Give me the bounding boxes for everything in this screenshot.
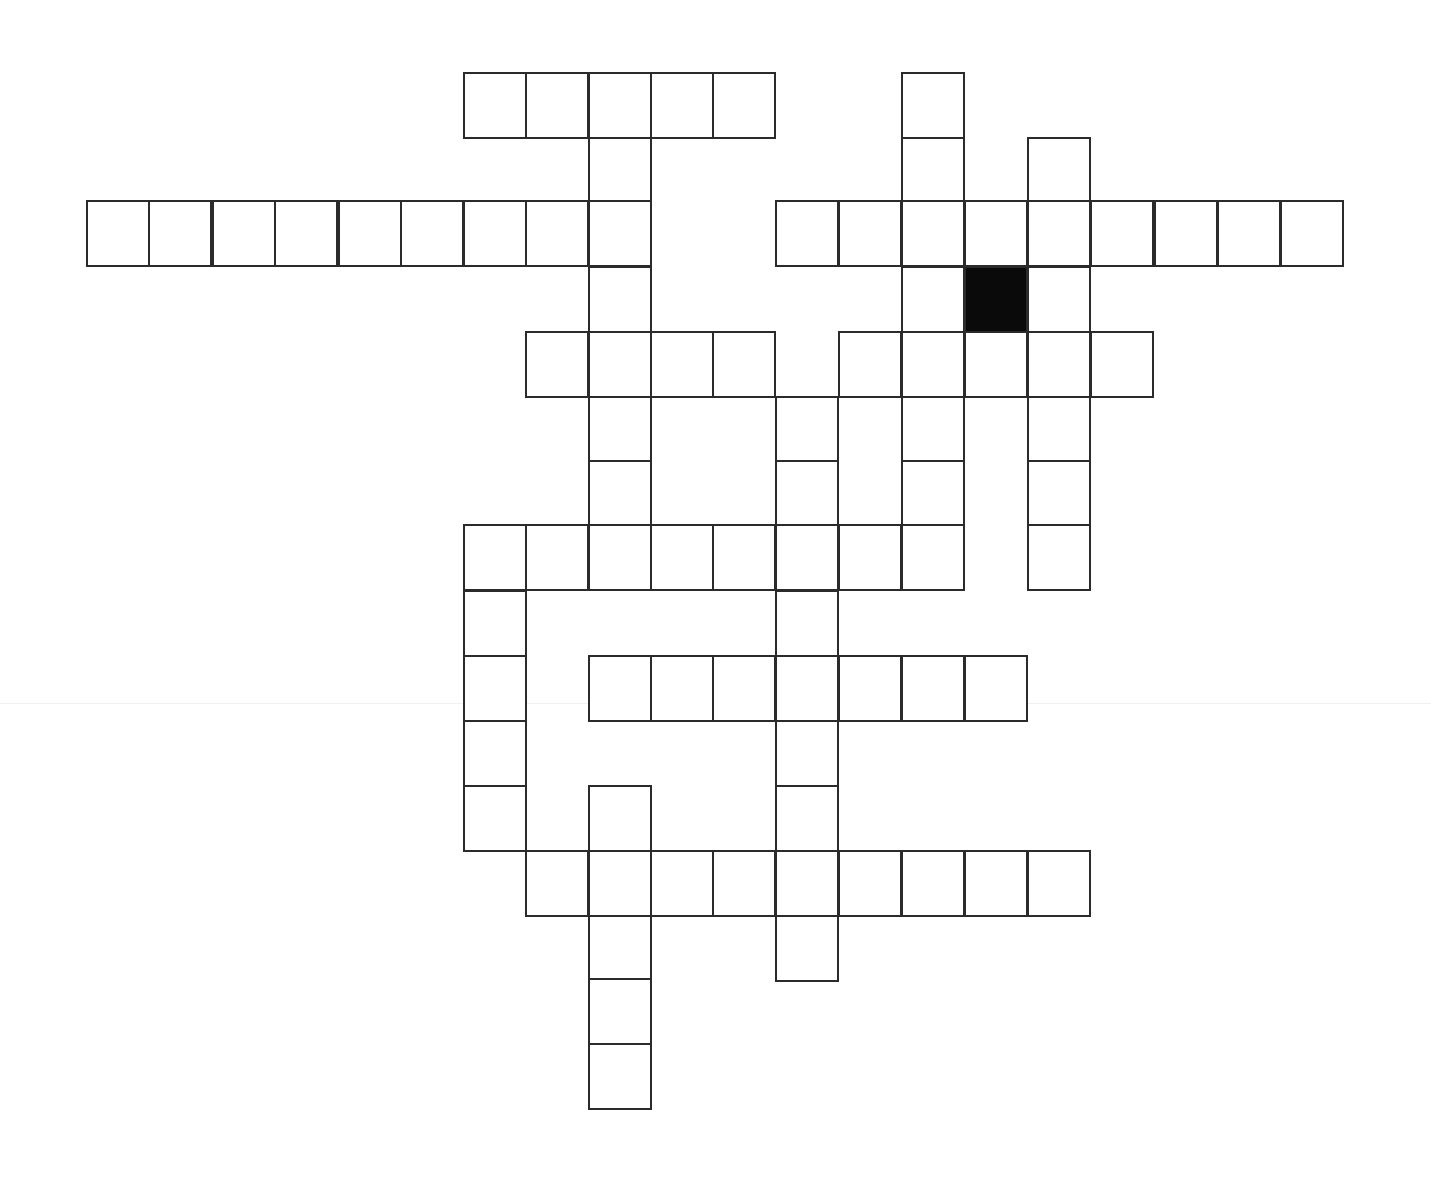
crossword-letter-input[interactable] xyxy=(903,852,963,915)
crossword-letter-input[interactable] xyxy=(966,852,1026,915)
crossword-cell[interactable] xyxy=(775,850,839,917)
crossword-letter-input[interactable] xyxy=(1029,333,1089,396)
crossword-cell[interactable] xyxy=(901,524,965,591)
crossword-letter-input[interactable] xyxy=(1029,268,1089,331)
crossword-letter-input[interactable] xyxy=(527,526,587,589)
crossword-letter-input[interactable] xyxy=(1029,398,1089,461)
crossword-letter-input[interactable] xyxy=(276,202,336,265)
crossword-cell[interactable] xyxy=(964,331,1028,398)
crossword-cell[interactable] xyxy=(588,200,652,267)
crossword-cell[interactable] xyxy=(964,200,1028,267)
crossword-letter-input[interactable] xyxy=(966,657,1026,720)
crossword-cell[interactable] xyxy=(588,785,652,852)
crossword-letter-input[interactable] xyxy=(590,657,650,720)
crossword-cell[interactable] xyxy=(1027,460,1091,527)
crossword-letter-input[interactable] xyxy=(465,526,525,589)
crossword-cell[interactable] xyxy=(588,1043,652,1110)
crossword-letter-input[interactable] xyxy=(590,139,650,202)
crossword-letter-input[interactable] xyxy=(1029,462,1089,525)
crossword-cell[interactable] xyxy=(588,655,652,722)
crossword-cell[interactable] xyxy=(525,200,589,267)
crossword-letter-input[interactable] xyxy=(150,202,210,265)
crossword-cell[interactable] xyxy=(775,590,839,657)
crossword-cell[interactable] xyxy=(775,460,839,527)
crossword-letter-input[interactable] xyxy=(840,852,900,915)
crossword-letter-input[interactable] xyxy=(903,202,963,265)
crossword-letter-input[interactable] xyxy=(840,202,900,265)
crossword-cell[interactable] xyxy=(588,266,652,333)
crossword-letter-input[interactable] xyxy=(402,202,462,265)
crossword-cell[interactable] xyxy=(588,331,652,398)
crossword-letter-input[interactable] xyxy=(590,268,650,331)
crossword-letter-input[interactable] xyxy=(652,333,712,396)
crossword-cell[interactable] xyxy=(525,524,589,591)
crossword-cell[interactable] xyxy=(463,200,527,267)
crossword-letter-input[interactable] xyxy=(590,462,650,525)
crossword-letter-input[interactable] xyxy=(527,74,587,137)
crossword-cell[interactable] xyxy=(712,655,776,722)
crossword-letter-input[interactable] xyxy=(777,657,837,720)
crossword-cell[interactable] xyxy=(588,396,652,463)
crossword-cell[interactable] xyxy=(901,396,965,463)
crossword-letter-input[interactable] xyxy=(903,526,963,589)
crossword-cell[interactable] xyxy=(775,785,839,852)
crossword-cell[interactable] xyxy=(838,524,902,591)
crossword-letter-input[interactable] xyxy=(777,462,837,525)
crossword-cell[interactable] xyxy=(1027,200,1091,267)
crossword-letter-input[interactable] xyxy=(903,139,963,202)
crossword-cell[interactable] xyxy=(712,72,776,139)
crossword-letter-input[interactable] xyxy=(777,787,837,850)
crossword-cell[interactable] xyxy=(901,460,965,527)
crossword-letter-input[interactable] xyxy=(1092,333,1152,396)
crossword-letter-input[interactable] xyxy=(527,852,587,915)
crossword-letter-input[interactable] xyxy=(714,333,774,396)
crossword-letter-input[interactable] xyxy=(214,202,274,265)
crossword-cell[interactable] xyxy=(964,655,1028,722)
crossword-cell[interactable] xyxy=(86,200,150,267)
crossword-cell[interactable] xyxy=(775,915,839,982)
crossword-letter-input[interactable] xyxy=(590,526,650,589)
crossword-cell[interactable] xyxy=(838,200,902,267)
crossword-cell[interactable] xyxy=(901,850,965,917)
crossword-letter-input[interactable] xyxy=(590,787,650,850)
crossword-letter-input[interactable] xyxy=(590,980,650,1043)
crossword-letter-input[interactable] xyxy=(1029,202,1089,265)
crossword-cell[interactable] xyxy=(1090,331,1154,398)
crossword-cell[interactable] xyxy=(775,200,839,267)
crossword-cell[interactable] xyxy=(775,720,839,787)
crossword-cell[interactable] xyxy=(775,655,839,722)
crossword-cell[interactable] xyxy=(1154,200,1218,267)
crossword-letter-input[interactable] xyxy=(777,722,837,785)
crossword-letter-input[interactable] xyxy=(652,657,712,720)
crossword-cell[interactable] xyxy=(463,720,527,787)
crossword-cell[interactable] xyxy=(712,850,776,917)
crossword-letter-input[interactable] xyxy=(777,398,837,461)
crossword-cell[interactable] xyxy=(588,850,652,917)
crossword-cell[interactable] xyxy=(463,524,527,591)
crossword-letter-input[interactable] xyxy=(1156,202,1216,265)
crossword-cell[interactable] xyxy=(901,137,965,204)
crossword-letter-input[interactable] xyxy=(1029,852,1089,915)
crossword-cell[interactable] xyxy=(901,655,965,722)
crossword-cell[interactable] xyxy=(650,72,714,139)
crossword-letter-input[interactable] xyxy=(465,74,525,137)
crossword-letter-input[interactable] xyxy=(714,526,774,589)
crossword-cell[interactable] xyxy=(463,72,527,139)
crossword-cell[interactable] xyxy=(1280,200,1344,267)
crossword-letter-input[interactable] xyxy=(590,852,650,915)
crossword-cell[interactable] xyxy=(588,460,652,527)
crossword-cell[interactable] xyxy=(712,331,776,398)
crossword-letter-input[interactable] xyxy=(840,526,900,589)
crossword-letter-input[interactable] xyxy=(590,333,650,396)
crossword-letter-input[interactable] xyxy=(903,657,963,720)
crossword-cell[interactable] xyxy=(838,850,902,917)
crossword-cell[interactable] xyxy=(1027,331,1091,398)
crossword-letter-input[interactable] xyxy=(714,852,774,915)
crossword-letter-input[interactable] xyxy=(1092,202,1152,265)
crossword-cell[interactable] xyxy=(650,850,714,917)
crossword-cell[interactable] xyxy=(338,200,402,267)
crossword-cell[interactable] xyxy=(901,331,965,398)
crossword-cell[interactable] xyxy=(588,137,652,204)
crossword-letter-input[interactable] xyxy=(590,74,650,137)
crossword-cell[interactable] xyxy=(838,655,902,722)
